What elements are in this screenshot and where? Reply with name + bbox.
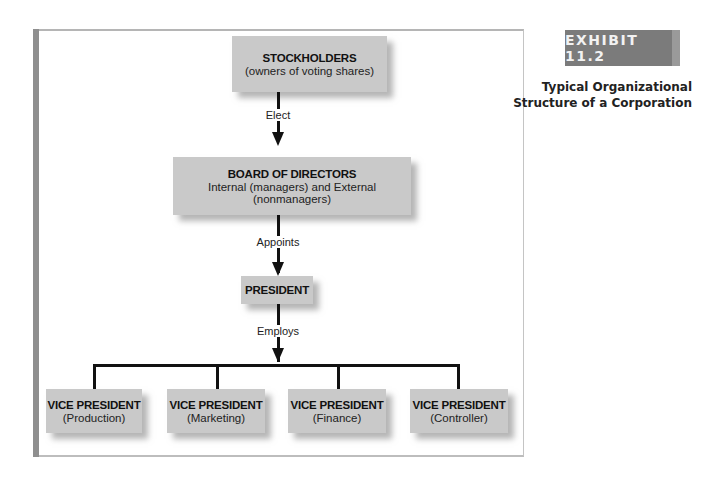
connector-vp-production	[93, 364, 96, 390]
node-title: BOARD OF DIRECTORS	[228, 168, 356, 180]
connector-vp-marketing	[216, 364, 219, 390]
node-title: VICE PRESIDENT	[290, 399, 383, 411]
arrow-down-icon	[272, 348, 284, 362]
connector-bus	[93, 364, 459, 367]
node-vp-production: VICE PRESIDENT (Production)	[46, 389, 142, 433]
node-vp-marketing: VICE PRESIDENT (Marketing)	[167, 389, 265, 433]
node-subtitle: (owners of voting shares)	[245, 65, 374, 77]
exhibit-badge: EXHIBIT 11.2	[565, 30, 680, 66]
connector-vp-finance	[337, 364, 340, 390]
edge-label-elect: Elect	[265, 109, 291, 121]
node-title: STOCKHOLDERS	[263, 52, 357, 64]
node-vp-finance: VICE PRESIDENT (Finance)	[288, 389, 386, 433]
node-subtitle: Internal (managers) and External (nonman…	[173, 181, 411, 205]
edge-label-employs: Employs	[256, 325, 300, 337]
arrow-down-icon	[272, 262, 284, 276]
node-board-of-directors: BOARD OF DIRECTORS Internal (managers) a…	[173, 157, 411, 215]
connector-vp-controller	[457, 364, 460, 390]
node-subtitle: (Production)	[63, 412, 126, 424]
node-subtitle: (Marketing)	[187, 412, 245, 424]
node-subtitle: (Controller)	[430, 412, 488, 424]
node-title: VICE PRESIDENT	[169, 399, 262, 411]
caption-line-2: Structure of a Corporation	[492, 95, 692, 111]
arrow-down-icon	[272, 132, 284, 146]
edge-label-appoints: Appoints	[256, 236, 301, 248]
frame-accent-bar	[33, 29, 39, 457]
node-title: VICE PRESIDENT	[412, 399, 505, 411]
node-title: VICE PRESIDENT	[47, 399, 140, 411]
node-president: PRESIDENT	[241, 276, 313, 304]
node-vp-controller: VICE PRESIDENT (Controller)	[410, 389, 508, 433]
exhibit-caption: Typical Organizational Structure of a Co…	[492, 79, 692, 111]
node-stockholders: STOCKHOLDERS (owners of voting shares)	[232, 36, 387, 92]
caption-line-1: Typical Organizational	[492, 79, 692, 95]
node-title: PRESIDENT	[245, 284, 309, 296]
node-subtitle: (Finance)	[313, 412, 362, 424]
